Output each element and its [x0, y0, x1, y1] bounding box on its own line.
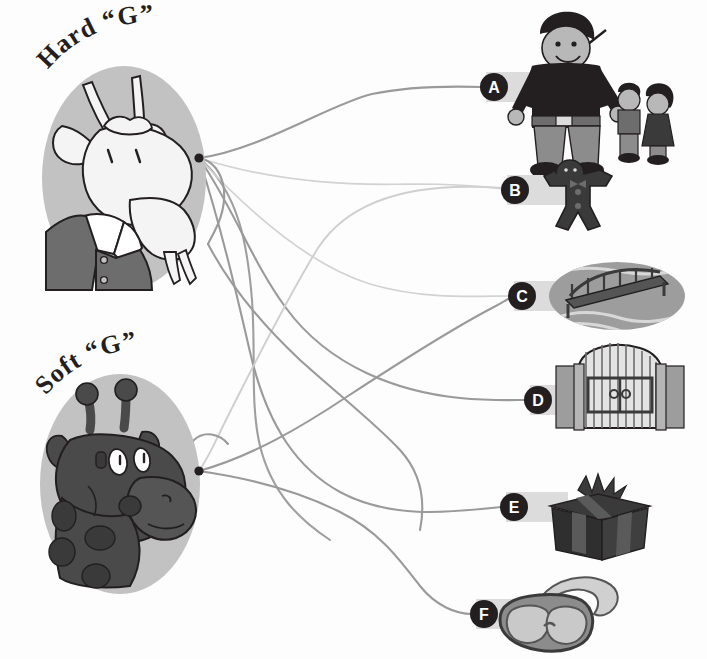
connector-crossing-strand	[208, 244, 422, 530]
child-1-body	[618, 110, 640, 134]
goat-button-top	[101, 257, 108, 264]
giraffe-spot-4	[82, 564, 110, 588]
child-1-shoes	[618, 153, 640, 163]
soft-g-illustration	[40, 374, 204, 594]
picture-D-gate[interactable]: D	[524, 343, 684, 430]
goat-beard	[164, 250, 196, 284]
connector-lines	[189, 87, 526, 614]
giraffe-ossicone-left-knob	[76, 383, 98, 405]
connector-soft-g-to-B-alt	[199, 158, 502, 189]
hard-g-anchor-dot[interactable]	[194, 153, 203, 162]
svg-text:Hard “G”: Hard “G”	[31, 0, 154, 74]
gate-post-right	[656, 364, 666, 430]
soft-g-anchor-dot[interactable]	[194, 466, 203, 475]
picture-C-bridge[interactable]: C	[508, 262, 686, 333]
child-2-shoes	[647, 155, 669, 165]
gift-ribbon-front	[572, 512, 586, 554]
badge-E-letter: E	[509, 499, 520, 516]
picture-E-gift[interactable]: E	[500, 474, 650, 560]
connector-hard-g-to-A	[199, 87, 482, 158]
gingerbread-button-1	[575, 189, 581, 195]
badge-B-letter: B	[509, 182, 521, 199]
connector-soft-g-to-F	[199, 471, 472, 614]
gingerbread-button-2	[575, 203, 581, 209]
goat-button-bottom	[101, 277, 108, 284]
badge-A-letter: A	[488, 79, 500, 96]
child-2-head	[647, 93, 669, 115]
connector-hard-g-strand-2	[199, 158, 330, 540]
giant-hand-left	[508, 109, 524, 125]
child-1-legs	[620, 134, 638, 156]
hard-g-illustration	[42, 66, 206, 290]
child-2-dress	[642, 114, 674, 146]
worksheet-canvas: Hard “G”	[0, 0, 707, 659]
picture-A-giant[interactable]: A	[480, 12, 674, 178]
giraffe-ossicone-right-knob	[115, 379, 137, 401]
hard-g-label: Hard “G”	[31, 0, 154, 74]
picture-F-goggles[interactable]: F	[470, 577, 618, 651]
giraffe-forehead-patch	[96, 452, 106, 468]
giant-belt-buckle	[556, 116, 572, 126]
hard-g-label-text: Hard “G”	[31, 0, 154, 74]
gingerbread-eye-right	[573, 168, 577, 172]
connector-soft-g-to-C-main	[199, 298, 510, 471]
giraffe-spot-2	[49, 538, 75, 566]
connector-hard-g-to-D	[199, 158, 526, 400]
giraffe-spot-3	[85, 526, 115, 550]
giant-eye-left	[555, 41, 560, 46]
goat-waistcoat-left	[46, 216, 98, 290]
badge-C-letter: C	[516, 288, 528, 305]
gingerbread-eye-left	[564, 168, 568, 172]
picture-B-gingerbread-man[interactable]: B	[501, 160, 612, 230]
worksheet-artwork: Hard “G”	[0, 0, 707, 659]
giraffe-spot-1	[52, 501, 76, 531]
giraffe-spot-5	[119, 496, 141, 516]
gift-ribbon-side	[616, 512, 632, 556]
connector-hard-g-to-E	[199, 158, 502, 512]
connector-soft-g-to-C	[199, 158, 510, 296]
goat-forelock	[104, 117, 152, 135]
badge-F-letter: F	[479, 606, 489, 623]
badge-D-letter: D	[532, 392, 544, 409]
child-1-head	[618, 89, 640, 111]
goggles-lens-left	[507, 606, 550, 643]
giant-eye-right	[571, 41, 576, 46]
gate-post-left	[574, 364, 584, 430]
